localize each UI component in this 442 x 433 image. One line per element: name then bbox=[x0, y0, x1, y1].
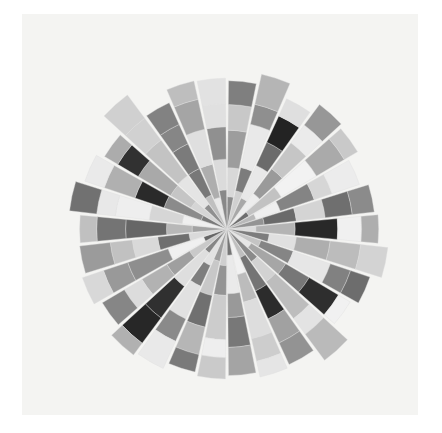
chart-segment bbox=[197, 78, 226, 106]
chart-segment bbox=[70, 182, 102, 214]
chart-segment bbox=[337, 216, 361, 241]
chart-segment bbox=[295, 219, 338, 240]
chart-segment bbox=[166, 223, 192, 234]
chart-segment bbox=[228, 81, 256, 107]
sectors-group bbox=[70, 74, 388, 379]
figure-canvas bbox=[0, 0, 442, 433]
chart-segment bbox=[80, 215, 98, 243]
chart-segment bbox=[355, 244, 387, 277]
chart-segment bbox=[228, 345, 256, 375]
polar-stacked-bar-chart bbox=[0, 0, 442, 433]
chart-segment bbox=[202, 104, 226, 129]
chart-segment bbox=[228, 105, 252, 133]
chart-segment bbox=[361, 215, 379, 244]
chart-segment bbox=[202, 338, 226, 358]
chart-segment bbox=[126, 219, 167, 238]
chart-segment bbox=[197, 355, 225, 379]
chart-segment bbox=[97, 217, 126, 242]
chart-segment bbox=[228, 316, 250, 348]
chart-segment bbox=[110, 240, 136, 264]
